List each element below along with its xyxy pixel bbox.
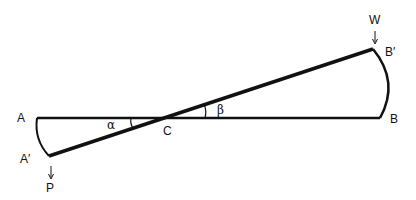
lever-diagram: A A′ B B′ C α β W P xyxy=(0,0,416,200)
label-C: C xyxy=(163,124,172,138)
angle-alpha-arc xyxy=(131,118,133,128)
label-alpha: α xyxy=(107,118,115,132)
label-A: A xyxy=(17,111,25,125)
label-W: W xyxy=(369,13,381,27)
arc-B-prime-to-B xyxy=(373,49,389,118)
label-beta: β xyxy=(217,103,224,117)
label-B: B xyxy=(390,112,398,126)
label-A-prime: A′ xyxy=(20,152,31,166)
beam-rotated-A-prime-B-prime xyxy=(49,49,373,156)
label-B-prime: B′ xyxy=(385,45,396,59)
arc-A-to-A-prime xyxy=(37,118,50,156)
label-P: P xyxy=(46,181,54,195)
